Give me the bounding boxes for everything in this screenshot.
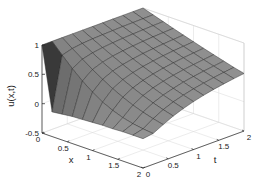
surface-plot: -0.500.5100.511.5200.511.52 u(x,t) x t [0,0,267,188]
surface-mesh [42,8,244,139]
z-tick-label: 0.5 [28,70,40,79]
t-tick-label: 2 [247,133,252,142]
t-tick-label: 0 [146,170,151,179]
x-tick-label: 0.5 [58,144,70,153]
x-tick-label: 1 [86,153,91,162]
t-tick-label: 0.5 [168,161,180,170]
t-axis-label: t [214,154,217,165]
x-tick-label: 2 [137,170,142,179]
x-tick-label: 0 [36,135,41,144]
t-tick-label: 1 [196,152,201,161]
x-tick-label: 1.5 [108,161,120,170]
z-tick-label: 0 [35,100,40,109]
t-tick-label: 1.5 [218,142,230,151]
x-axis-label: x [69,154,74,165]
z-axis-label: u(x,t) [5,85,16,107]
z-tick-label: 1 [35,41,40,50]
